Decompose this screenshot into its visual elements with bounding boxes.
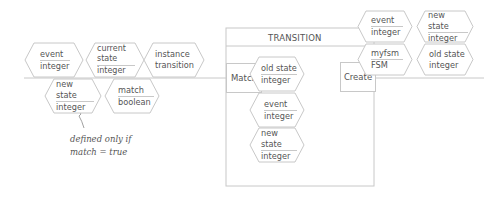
input-instance: instance transition xyxy=(143,42,205,78)
output-new-state: new state integer xyxy=(44,78,102,114)
field-type: integer xyxy=(264,110,297,122)
param-name: myfsm xyxy=(371,48,403,59)
field-event: event integer xyxy=(249,92,305,128)
field-type: integer xyxy=(261,74,297,86)
param-name: current state xyxy=(97,44,135,65)
field-name: new state xyxy=(261,128,297,150)
param-name: match xyxy=(118,85,154,96)
field-name: old state xyxy=(261,63,297,74)
field-old-state: old state integer xyxy=(249,56,305,92)
param-type: integer xyxy=(429,60,468,71)
annotation-line-2: match = true xyxy=(70,146,131,159)
field-new-state: new state integer xyxy=(249,127,305,163)
param-type: integer xyxy=(40,60,70,72)
output-match: match boolean xyxy=(104,78,160,114)
param-name: event xyxy=(40,49,70,60)
class-title: TRANSITION xyxy=(268,33,322,43)
create-input-event: event integer xyxy=(357,10,413,43)
param-name: event xyxy=(371,15,403,26)
field-name: event xyxy=(264,99,297,110)
param-type: integer xyxy=(428,32,468,44)
annotation-note: defined only if match = true xyxy=(70,133,131,159)
param-type: integer xyxy=(56,101,94,113)
input-event: event integer xyxy=(24,42,84,78)
create-input-old-state: old state integer xyxy=(416,43,474,76)
param-name: new state xyxy=(56,79,94,101)
create-input-myfsm: myfsm FSM xyxy=(357,43,413,76)
field-type: integer xyxy=(261,150,297,162)
param-name: instance xyxy=(155,49,199,60)
param-type: FSM xyxy=(371,59,403,71)
param-type: boolean xyxy=(118,96,154,108)
param-name: old state xyxy=(429,49,468,60)
input-current-state: current state integer xyxy=(85,42,145,78)
param-name: new state xyxy=(428,10,468,32)
annotation-line-1: defined only if xyxy=(70,133,131,146)
create-input-new-state: new state integer xyxy=(416,10,474,43)
param-type: integer xyxy=(371,26,403,38)
param-type: integer xyxy=(97,65,135,77)
param-type: transition xyxy=(155,60,199,71)
